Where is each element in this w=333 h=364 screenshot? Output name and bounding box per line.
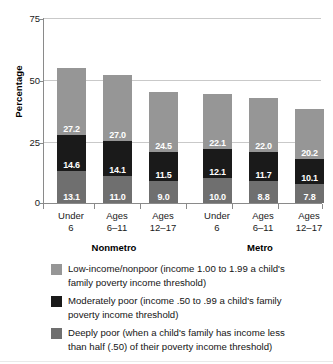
segment-low-income-nonpoor: 24.5 bbox=[149, 92, 178, 152]
bar-metro-ages12-17[interactable]: 7.8 10.1 20.2 bbox=[295, 109, 324, 203]
bar-metro-under6[interactable]: 10.0 12.1 22.1 bbox=[203, 94, 232, 203]
legend-label-line1: Moderately poor (income .50 to .99 a chi… bbox=[68, 294, 327, 308]
legend-label-line2: than half (.50) of their poverty income … bbox=[68, 340, 327, 354]
y-axis-title: Percentage bbox=[13, 52, 24, 132]
x-label-nonmetro-ages6-11: Ages 6–11 bbox=[94, 210, 140, 233]
segment-value-label: 8.8 bbox=[249, 192, 278, 202]
bar-metro-ages6-11[interactable]: 8.8 11.7 22.0 bbox=[249, 98, 278, 203]
segment-deeply-poor: 10.0 bbox=[203, 178, 232, 203]
x-label-line2: 12–17 bbox=[296, 222, 322, 233]
group-label-nonmetro: Nonmetro bbox=[54, 242, 174, 253]
legend-item-low-income-nonpoor: Low-income/nonpoor (income 1.00 to 1.99 … bbox=[0, 262, 333, 290]
segment-value-label: 22.0 bbox=[249, 141, 278, 151]
segment-value-label: 22.1 bbox=[203, 138, 232, 148]
segment-value-label: 20.2 bbox=[295, 148, 324, 158]
segment-value-label: 13.1 bbox=[57, 192, 86, 202]
x-axis-region: Under 6 Ages 6–11 Ages 12–17 Under 6 Age… bbox=[43, 204, 322, 244]
x-label-line1: Under bbox=[204, 210, 230, 221]
x-label-line2: 6 bbox=[214, 222, 219, 233]
segment-deeply-poor: 8.8 bbox=[249, 181, 278, 203]
legend-item-moderately-poor: Moderately poor (income .50 to .99 a chi… bbox=[0, 294, 333, 322]
group-label-metro: Metro bbox=[200, 242, 320, 253]
x-label-line1: Ages bbox=[106, 210, 128, 221]
segment-low-income-nonpoor: 22.0 bbox=[249, 98, 278, 152]
segment-value-label: 27.2 bbox=[57, 124, 86, 134]
legend-swatch-low-income-nonpoor bbox=[51, 264, 62, 275]
segment-value-label: 7.8 bbox=[295, 192, 324, 202]
segment-low-income-nonpoor: 20.2 bbox=[295, 109, 324, 159]
segment-deeply-poor: 13.1 bbox=[57, 171, 86, 203]
x-label-line1: Under bbox=[58, 210, 84, 221]
x-tick bbox=[186, 204, 187, 209]
x-tick bbox=[43, 204, 44, 209]
x-label-line2: 6–11 bbox=[253, 222, 273, 233]
legend-label-line1: Deeply poor (when a child's family has i… bbox=[68, 326, 327, 340]
bar-nonmetro-ages12-17[interactable]: 9.0 11.5 24.5 bbox=[149, 92, 178, 203]
x-tick bbox=[94, 204, 95, 209]
segment-value-label: 11.0 bbox=[103, 192, 132, 202]
segment-value-label: 14.6 bbox=[57, 160, 86, 170]
bottom-rule bbox=[0, 361, 333, 362]
x-label-line2: 6 bbox=[68, 222, 73, 233]
x-label-line2: 12–17 bbox=[150, 222, 176, 233]
x-label-metro-ages12-17: Ages 12–17 bbox=[286, 210, 332, 233]
segment-moderately-poor: 11.7 bbox=[249, 152, 278, 181]
segment-moderately-poor: 12.1 bbox=[203, 149, 232, 179]
x-label-metro-under6: Under 6 bbox=[194, 210, 240, 233]
bar-nonmetro-under6[interactable]: 13.1 14.6 27.2 bbox=[57, 68, 86, 203]
legend-item-deeply-poor: Deeply poor (when a child's family has i… bbox=[0, 326, 333, 354]
x-label-line1: Ages bbox=[298, 210, 320, 221]
stacked-bar-chart: Percentage 75 50 25 0 13.1 14.6 bbox=[0, 0, 333, 262]
x-label-nonmetro-ages12-17: Ages 12–17 bbox=[140, 210, 186, 233]
chart-legend: Low-income/nonpoor (income 1.00 to 1.99 … bbox=[0, 262, 333, 358]
segment-deeply-poor: 11.0 bbox=[103, 176, 132, 203]
legend-swatch-moderately-poor bbox=[51, 296, 62, 307]
segment-value-label: 11.7 bbox=[249, 170, 278, 180]
y-tick-label-25: 25 bbox=[29, 137, 40, 148]
segment-moderately-poor: 14.6 bbox=[57, 135, 86, 171]
segment-value-label: 11.5 bbox=[149, 170, 178, 180]
segment-moderately-poor: 11.5 bbox=[149, 152, 178, 180]
segment-low-income-nonpoor: 27.0 bbox=[103, 75, 132, 142]
x-tick bbox=[232, 204, 233, 209]
legend-label-line2: poverty income threshold) bbox=[68, 308, 327, 322]
segment-value-label: 10.1 bbox=[295, 173, 324, 183]
x-tick bbox=[278, 204, 279, 209]
legend-swatch-deeply-poor bbox=[51, 328, 62, 339]
x-tick bbox=[322, 204, 323, 209]
segment-deeply-poor: 9.0 bbox=[149, 181, 178, 203]
segment-value-label: 9.0 bbox=[149, 192, 178, 202]
segment-moderately-poor: 10.1 bbox=[295, 159, 324, 184]
segment-deeply-poor: 7.8 bbox=[295, 184, 324, 203]
legend-label-line2: family poverty income threshold) bbox=[68, 276, 327, 290]
x-label-line1: Ages bbox=[152, 210, 174, 221]
segment-low-income-nonpoor: 27.2 bbox=[57, 68, 86, 135]
y-tick-label-50: 50 bbox=[29, 75, 40, 86]
segment-value-label: 10.0 bbox=[203, 192, 232, 202]
segment-value-label: 27.0 bbox=[103, 130, 132, 140]
x-tick bbox=[140, 204, 141, 209]
x-label-line2: 6–11 bbox=[107, 222, 127, 233]
segment-low-income-nonpoor: 22.1 bbox=[203, 94, 232, 149]
segment-value-label: 12.1 bbox=[203, 167, 232, 177]
y-tick-label-0: 0 bbox=[35, 197, 40, 208]
segment-value-label: 14.1 bbox=[103, 165, 132, 175]
segment-moderately-poor: 14.1 bbox=[103, 141, 132, 176]
legend-label-line1: Low-income/nonpoor (income 1.00 to 1.99 … bbox=[68, 262, 327, 276]
bars-layer: 13.1 14.6 27.2 11.0 14.1 27.0 9.0 bbox=[43, 18, 320, 203]
x-label-metro-ages6-11: Ages 6–11 bbox=[240, 210, 286, 233]
y-tick-label-75: 75 bbox=[29, 13, 40, 24]
bar-nonmetro-ages6-11[interactable]: 11.0 14.1 27.0 bbox=[103, 75, 132, 203]
x-label-nonmetro-under6: Under 6 bbox=[48, 210, 94, 233]
segment-value-label: 24.5 bbox=[149, 141, 178, 151]
x-label-line1: Ages bbox=[252, 210, 274, 221]
